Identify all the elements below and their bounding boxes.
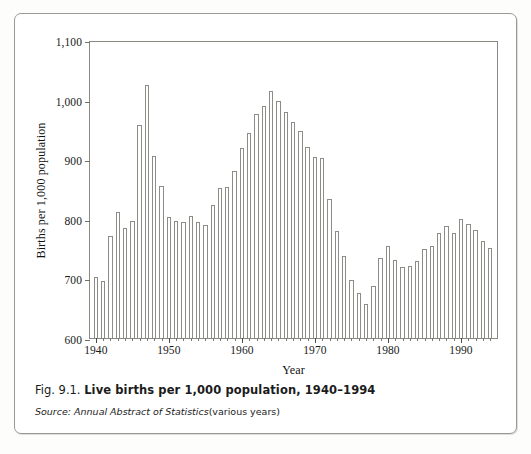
x-axis-tick	[176, 338, 177, 341]
x-axis-tick	[425, 338, 426, 341]
bar	[364, 304, 368, 338]
source-title: Annual Abstract of Statistics	[74, 406, 209, 417]
bar	[349, 280, 353, 338]
x-axis-major-tick	[315, 338, 316, 343]
bar	[481, 241, 485, 338]
bar	[152, 156, 156, 338]
x-axis-tick	[249, 338, 250, 341]
y-axis-tick-label: 1,000	[56, 96, 82, 108]
bars-layer	[90, 42, 497, 338]
figure-frame: Births per 1,000 population 600700800900…	[14, 13, 517, 434]
bar	[284, 112, 288, 338]
x-axis-tick	[359, 338, 360, 341]
x-axis-tick	[191, 338, 192, 341]
y-axis-tick-label: 700	[64, 274, 82, 286]
x-axis-tick-label: 1960	[230, 344, 253, 356]
source-label: Source:	[35, 406, 71, 417]
bar	[137, 125, 141, 338]
x-axis-tick	[351, 338, 352, 341]
figure-caption: Fig. 9.1. Live births per 1,000 populati…	[35, 383, 495, 397]
bar	[211, 205, 215, 339]
x-axis-tick	[395, 338, 396, 341]
bar	[459, 219, 463, 338]
x-axis-tick-label: 1940	[84, 344, 107, 356]
bar	[488, 248, 492, 338]
y-axis-tick	[85, 42, 90, 43]
y-axis-title-label: Births per 1,000 population	[34, 122, 49, 258]
x-axis-tick	[468, 338, 469, 341]
y-axis-tick	[85, 340, 90, 341]
x-axis-major-tick	[461, 338, 462, 343]
y-axis-tick	[85, 221, 90, 222]
x-axis-tick	[293, 338, 294, 341]
x-axis-tick-label: 1980	[376, 344, 399, 356]
x-axis-tick	[271, 338, 272, 341]
x-axis-tick	[286, 338, 287, 341]
x-axis-major-tick	[169, 338, 170, 343]
y-axis-tick-label: 1,100	[56, 36, 82, 48]
y-axis-tick-label: 900	[64, 155, 82, 167]
bar	[408, 266, 412, 338]
x-axis-tick	[140, 338, 141, 341]
bar	[291, 122, 295, 338]
x-axis-major-tick	[96, 338, 97, 343]
x-axis-tick	[300, 338, 301, 341]
figure-number: Fig. 9.1.	[35, 383, 81, 397]
bar	[101, 281, 105, 338]
x-axis-tick	[403, 338, 404, 341]
x-axis-tick	[366, 338, 367, 341]
bar	[262, 106, 266, 338]
x-axis-tick	[417, 338, 418, 341]
bar	[167, 217, 171, 338]
bar	[335, 231, 339, 338]
x-axis-tick	[432, 338, 433, 341]
bar	[181, 222, 185, 338]
x-axis-tick	[278, 338, 279, 341]
x-axis-tick	[476, 338, 477, 341]
bar	[444, 226, 448, 338]
bar	[189, 216, 193, 338]
bar	[225, 187, 229, 338]
x-axis-tick	[118, 338, 119, 341]
x-axis-tick	[220, 338, 221, 341]
x-axis-tick	[257, 338, 258, 341]
x-axis-major-tick	[242, 338, 243, 343]
x-axis-tick	[381, 338, 382, 341]
x-axis-tick	[322, 338, 323, 341]
bar	[378, 258, 382, 338]
x-axis-tick	[183, 338, 184, 341]
x-axis-tick	[154, 338, 155, 341]
bar	[298, 131, 302, 338]
bar	[218, 188, 222, 338]
x-axis-tick	[308, 338, 309, 341]
bar	[473, 230, 477, 338]
y-axis-tick-label: 800	[64, 215, 82, 227]
page-background: Births per 1,000 population 600700800900…	[0, 0, 531, 454]
x-axis-tick	[410, 338, 411, 341]
bar	[203, 225, 207, 338]
y-axis-tick	[85, 161, 90, 162]
x-axis-tick	[344, 338, 345, 341]
x-axis-tick	[454, 338, 455, 341]
x-axis-title: Year	[89, 363, 498, 378]
bar	[422, 249, 426, 338]
x-axis-tick	[162, 338, 163, 341]
bar	[371, 286, 375, 338]
bar	[393, 260, 397, 338]
x-axis-tick-label: 1990	[449, 344, 472, 356]
x-axis-tick-label: 1970	[303, 344, 326, 356]
x-axis-tick	[227, 338, 228, 341]
bar	[400, 267, 404, 338]
bar	[174, 221, 178, 338]
x-axis-tick	[446, 338, 447, 341]
source-note: (various years)	[209, 406, 280, 417]
x-axis-tick	[213, 338, 214, 341]
chart-area: Births per 1,000 population 600700800900…	[15, 14, 518, 374]
bar	[327, 199, 331, 338]
bar	[452, 233, 456, 338]
x-axis-tick-label: 1950	[157, 344, 180, 356]
caption-block: Fig. 9.1. Live births per 1,000 populati…	[35, 383, 495, 417]
x-axis-tick	[110, 338, 111, 341]
bar	[145, 85, 149, 338]
x-axis-tick	[483, 338, 484, 341]
